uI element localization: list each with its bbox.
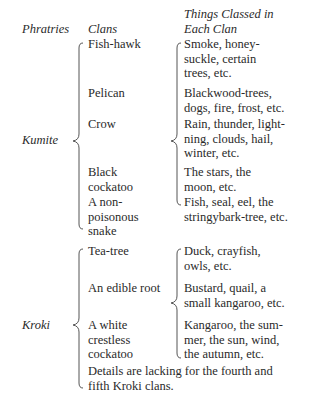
clan-edible-root: An edible root (88, 281, 160, 296)
kroki-note: Details are lacking for the fourth and f… (88, 364, 273, 393)
clan-crow: Crow (88, 117, 116, 132)
things-white-crestless-cockatoo: Kangaroo, the sum- mer, the sun, wind, t… (184, 318, 283, 362)
things-black-cockatoo: The stars, the moon, etc. (184, 165, 251, 194)
kumite-things-brace-icon (171, 43, 181, 205)
things-pelican: Blackwood-trees, dogs, fire, frost, etc. (184, 86, 284, 115)
clan-non-poisonous-snake: A non- poisonous snake (88, 195, 139, 239)
clan-fish-hawk: Fish-hawk (88, 37, 141, 52)
things-crow: Rain, thunder, light- ning, clouds, hail… (184, 117, 285, 161)
clan-white-crestless-cockatoo: A white crestless cockatoo (88, 318, 133, 362)
kumite-clans-brace-icon (73, 43, 83, 229)
phratry-kroki: Kroki (22, 318, 50, 333)
clan-tea-tree: Tea-tree (88, 244, 129, 259)
things-tea-tree: Duck, crayfish, owls, etc. (184, 244, 261, 273)
things-fish-hawk: Smoke, honey- suckle, certain trees, etc… (184, 37, 260, 81)
kroki-clans-brace-icon (73, 249, 83, 388)
kroki-things-brace-icon (171, 249, 181, 358)
things-edible-root: Bustard, quail, a small kangaroo, etc. (184, 281, 285, 310)
clan-black-cockatoo: Black cockatoo (88, 165, 133, 194)
things-non-poisonous-snake: Fish, seal, eel, the stringybark-tree, e… (184, 195, 288, 224)
clan-pelican: Pelican (88, 86, 125, 101)
phratry-kumite: Kumite (22, 133, 58, 148)
